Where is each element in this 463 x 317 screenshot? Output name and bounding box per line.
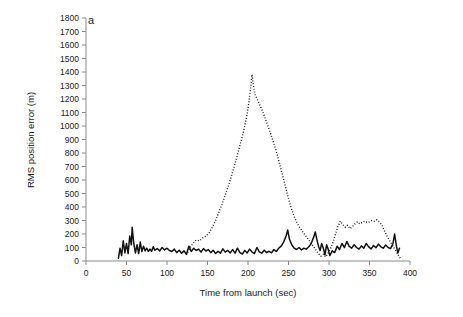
- x-tick-label: 300: [322, 268, 336, 278]
- series-dotted: [186, 75, 400, 259]
- y-tick-label: 1500: [60, 54, 79, 64]
- y-tick-label: 1200: [60, 94, 79, 104]
- y-tick-label: 1000: [60, 121, 79, 131]
- x-axis-ticks: 050100150200250300350400: [84, 261, 418, 278]
- x-tick-label: 350: [362, 268, 376, 278]
- y-tick-label: 600: [65, 175, 79, 185]
- y-tick-label: 900: [65, 135, 79, 145]
- x-tick-label: 250: [281, 268, 295, 278]
- y-tick-label: 1300: [60, 81, 79, 91]
- figure-panel: a 01002003004005006007008009001000110012…: [0, 0, 463, 317]
- y-tick-label: 1400: [60, 67, 79, 77]
- x-tick-label: 150: [200, 268, 214, 278]
- y-tick-label: 700: [65, 162, 79, 172]
- y-tick-label: 500: [65, 189, 79, 199]
- y-tick-label: 1100: [61, 108, 80, 118]
- x-tick-label: 100: [160, 268, 174, 278]
- x-tick-label: 200: [241, 268, 255, 278]
- y-tick-label: 800: [65, 148, 79, 158]
- y-tick-label: 100: [65, 243, 79, 253]
- panel-label-group: a: [88, 14, 95, 26]
- y-axis-ticks: 0100200300400500600700800900100011001200…: [60, 13, 86, 266]
- x-tick-label: 0: [84, 268, 89, 278]
- series-solid: [118, 227, 399, 258]
- y-axis-title: RMS position error (m): [25, 92, 36, 188]
- x-tick-label: 50: [122, 268, 132, 278]
- y-tick-label: 200: [65, 229, 79, 239]
- y-tick-label: 300: [65, 216, 79, 226]
- y-tick-label: 0: [74, 256, 79, 266]
- y-tick-label: 400: [65, 202, 79, 212]
- y-tick-label: 1600: [60, 40, 79, 50]
- y-tick-label: 1700: [60, 27, 79, 37]
- x-tick-label: 400: [403, 268, 417, 278]
- x-axis-title: Time from launch (sec): [200, 287, 297, 298]
- chart-canvas: a 01002003004005006007008009001000110012…: [0, 0, 463, 317]
- y-tick-label: 1800: [60, 13, 79, 23]
- data-series-group: [118, 75, 400, 259]
- panel-label: a: [88, 14, 95, 26]
